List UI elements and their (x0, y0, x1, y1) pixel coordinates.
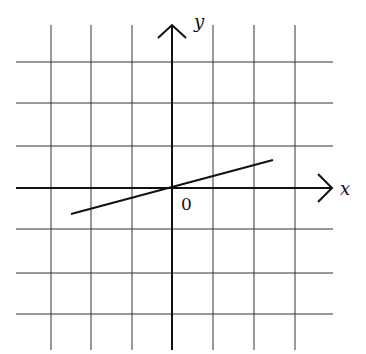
coordinate-plane: x y 0 (0, 0, 366, 354)
x-axis (16, 174, 332, 202)
origin-label: 0 (181, 194, 192, 214)
x-axis-label: x (340, 178, 350, 199)
y-axis-label: y (193, 11, 205, 32)
